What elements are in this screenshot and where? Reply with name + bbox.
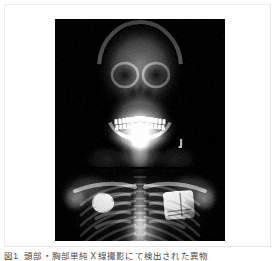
xray-plate	[55, 19, 225, 241]
figure-caption-text: 頭部・胸部単純Ｘ線撮影にて検出された異物	[24, 251, 208, 261]
figure-caption-label: 図1	[4, 251, 18, 261]
figure-card	[4, 4, 271, 247]
figure-caption: 図1頭部・胸部単純Ｘ線撮影にて検出された異物	[4, 251, 271, 261]
radiograph-image	[55, 19, 225, 241]
